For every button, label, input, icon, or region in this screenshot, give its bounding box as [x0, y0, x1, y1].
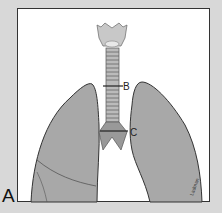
bronchi [99, 122, 127, 150]
annotation-C: C [130, 127, 137, 138]
annotation-B: B [123, 81, 130, 92]
anatomy-illustration: B C Ladman [0, 0, 222, 213]
panel-label: A [2, 186, 15, 205]
